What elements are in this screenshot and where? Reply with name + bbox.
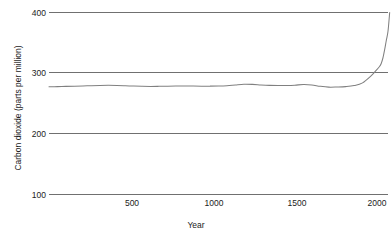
- x-tick-label-1000: 1000: [194, 198, 234, 208]
- gridlines: [49, 13, 388, 195]
- y-axis-title: Carbon dioxide (parts per million): [13, 18, 23, 198]
- data-series-co2: [49, 13, 390, 88]
- co2-line-chart: 400 300 200 100 500 1000 1500 2000 Carbo…: [0, 0, 392, 239]
- x-tick-label-500: 500: [112, 198, 152, 208]
- y-tick-label-400: 400: [16, 8, 46, 18]
- co2-trend-line: [49, 13, 390, 88]
- x-axis-title: Year: [0, 220, 392, 230]
- x-tick-label-2000: 2000: [357, 198, 392, 208]
- x-tick-label-1500: 1500: [277, 198, 317, 208]
